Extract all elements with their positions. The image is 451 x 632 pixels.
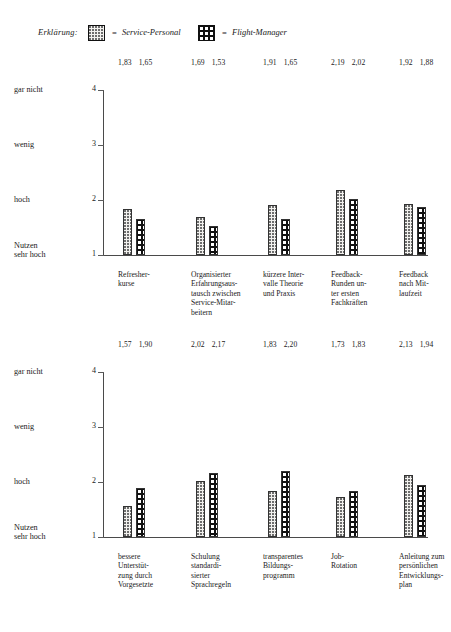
y-tick-1-upper — [98, 255, 104, 256]
y-tick-label-1-lower: 1 — [80, 532, 96, 540]
category-label-upper-1: OrganisierterErfahrungsaus-tausch zwisch… — [191, 270, 253, 317]
y-tick-2-lower — [98, 482, 104, 483]
legend-label-flight-manager: Flight-Manager — [232, 27, 287, 37]
category-label-line: Organisierter — [191, 270, 253, 279]
category-label-line: tausch zwischen — [191, 289, 253, 298]
bar-upper-1-flight-manager — [209, 226, 218, 255]
y-tick-4-lower — [98, 372, 104, 373]
bar-upper-3-flight-manager — [349, 199, 358, 255]
category-label-lower-0: bessereUnterstüt-zung durchVorgesetzte — [118, 552, 180, 590]
category-label-lower-3: Job-Rotation — [331, 552, 393, 571]
y-tick-2-upper — [98, 200, 104, 201]
bar-upper-4-service-personal — [404, 204, 413, 255]
y-axis-text-line: hoch — [14, 477, 30, 487]
legend-equals-1: = — [112, 28, 117, 38]
category-label-line: Entwicklungs- — [399, 571, 451, 580]
category-label-line: Unterstüt- — [118, 561, 180, 570]
category-label-line: Sprachregeln — [191, 580, 253, 589]
category-label-line: Erfahrungsaus- — [191, 279, 253, 288]
y-tick-label-4-upper: 4 — [80, 85, 96, 93]
bar-upper-0-service-personal — [123, 209, 132, 255]
y-axis-text-line: gar nicht — [14, 85, 43, 95]
bar-upper-4-flight-manager — [417, 207, 426, 255]
bar-lower-3-flight-manager — [349, 491, 358, 537]
plot-area-lower: 4gar nicht3wenig2hoch1Nutzensehr hoch — [0, 340, 451, 550]
bar-lower-0-flight-manager — [136, 488, 145, 538]
y-axis-text-4-upper: gar nicht — [14, 85, 43, 95]
y-axis-text-line: hoch — [14, 195, 30, 205]
category-label-line: programm — [263, 571, 325, 580]
chart-lower: 1,571,902,022,171,832,201,731,832,131,94… — [0, 340, 451, 610]
category-label-line: Job- — [331, 552, 393, 561]
category-label-lower-2: transparentesBildungs-programm — [263, 552, 325, 580]
legend-swatch-flight-manager — [198, 25, 215, 41]
chart-upper: 1,831,651,691,531,911,652,192,021,921,88… — [0, 58, 451, 318]
category-label-line: Feedback — [399, 270, 451, 279]
category-label-line: valle Theorie — [263, 279, 325, 288]
y-axis-text-3-lower: wenig — [14, 422, 34, 432]
y-axis-line-lower — [103, 372, 104, 538]
legend-swatch-service-personal — [88, 25, 105, 41]
category-label-line: Vorgesetzte — [118, 580, 180, 589]
category-label-line: Schulung — [191, 552, 253, 561]
category-label-line: Rotation — [331, 561, 393, 570]
bar-lower-1-flight-manager — [209, 473, 218, 537]
y-tick-4-upper — [98, 90, 104, 91]
category-label-lower-4: Anleitung zumpersönlichenEntwicklungs-pl… — [399, 552, 451, 590]
y-tick-label-2-lower: 2 — [80, 477, 96, 485]
category-label-line: transparentes — [263, 552, 325, 561]
category-label-line: beitern — [191, 308, 253, 317]
category-label-upper-0: Refresher-kurse — [118, 270, 180, 289]
y-axis-text-4-lower: gar nicht — [14, 367, 43, 377]
category-label-line: kürzere Inter- — [263, 270, 325, 279]
y-axis-text-3-upper: wenig — [14, 140, 34, 150]
legend-label-service-personal: Service-Personal — [122, 27, 181, 37]
y-axis-text-line: wenig — [14, 422, 34, 432]
y-axis-text-line: wenig — [14, 140, 34, 150]
category-label-upper-4: Feedbacknach Mit-laufzeit — [399, 270, 451, 298]
bar-lower-4-service-personal — [404, 475, 413, 537]
category-label-line: Refresher- — [118, 270, 180, 279]
bar-upper-3-service-personal — [336, 190, 345, 255]
category-label-line: persönlichen — [399, 561, 451, 570]
category-label-line: bessere — [118, 552, 180, 561]
y-tick-label-4-lower: 4 — [80, 367, 96, 375]
y-tick-label-3-upper: 3 — [80, 140, 96, 148]
x-axis-line-upper — [103, 255, 428, 256]
bar-upper-1-service-personal — [196, 217, 205, 255]
y-tick-3-upper — [98, 145, 104, 146]
category-label-line: zung durch — [118, 571, 180, 580]
category-label-line: standardi- — [191, 561, 253, 570]
bar-upper-0-flight-manager — [136, 219, 145, 255]
y-tick-3-lower — [98, 427, 104, 428]
legend: Erklärung: = Service-Personal = Flight-M… — [0, 24, 451, 48]
y-tick-label-1-upper: 1 — [80, 250, 96, 258]
category-label-line: kurse — [118, 279, 180, 288]
y-axis-text-line: Nutzen — [14, 241, 46, 251]
y-tick-1-lower — [98, 537, 104, 538]
category-label-upper-3: Feedback-Runden un-ter erstenFachkräften — [331, 270, 393, 308]
y-axis-text-2-upper: hoch — [14, 195, 30, 205]
category-label-lower-1: Schulungstandardi-sierterSprachregeln — [191, 552, 253, 590]
category-label-line: Bildungs- — [263, 561, 325, 570]
y-axis-text-line: gar nicht — [14, 367, 43, 377]
y-axis-text-line: sehr hoch — [14, 532, 46, 542]
bar-lower-3-service-personal — [336, 497, 345, 537]
category-label-line: und Praxis — [263, 289, 325, 298]
category-label-line: Runden un- — [331, 279, 393, 288]
bar-lower-0-service-personal — [123, 506, 132, 537]
y-axis-line-upper — [103, 90, 104, 256]
category-label-line: Fachkräften — [331, 298, 393, 307]
category-label-line: Service-Mitar- — [191, 298, 253, 307]
y-axis-text-line: Nutzen — [14, 523, 46, 533]
category-label-line: nach Mit- — [399, 279, 451, 288]
legend-title: Erklärung: — [38, 27, 78, 37]
bar-lower-2-flight-manager — [281, 471, 290, 537]
y-axis-text-1-upper: Nutzensehr hoch — [14, 241, 46, 260]
category-label-line: Anleitung zum — [399, 552, 451, 561]
y-axis-text-2-lower: hoch — [14, 477, 30, 487]
y-tick-label-2-upper: 2 — [80, 195, 96, 203]
y-axis-text-line: sehr hoch — [14, 250, 46, 260]
y-tick-label-3-lower: 3 — [80, 422, 96, 430]
y-axis-text-1-lower: Nutzensehr hoch — [14, 523, 46, 542]
